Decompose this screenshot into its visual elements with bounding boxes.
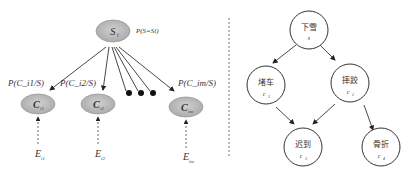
- edge-label-m: P(C_im/S): [177, 78, 216, 88]
- child-node-m: C im E im: [169, 97, 203, 164]
- svg-text:骨折: 骨折: [373, 139, 389, 149]
- svg-text:下雪: 下雪: [301, 23, 317, 32]
- svg-text:C: C: [93, 99, 100, 110]
- node-c1: 堵车 c 1: [247, 66, 285, 104]
- edge-label-1: P(C_i1/S): [7, 78, 44, 88]
- svg-text:c: c: [263, 91, 266, 97]
- svg-text:迟到: 迟到: [295, 140, 311, 149]
- diagram-canvas: S i P(S=Si) P(C_i1/S) P(C_i2/S) P(C_im/S…: [0, 0, 413, 185]
- node-c2: 摔跤 c 2: [331, 64, 369, 102]
- svg-text:im: im: [189, 159, 194, 164]
- child-node-1: C i1 E i1: [21, 94, 55, 161]
- svg-text:摔跤: 摔跤: [342, 75, 358, 85]
- left-diagram: S i P(S=Si) P(C_i1/S) P(C_i2/S) P(C_im/S…: [7, 20, 216, 164]
- svg-text:i1: i1: [40, 106, 44, 111]
- svg-text:4: 4: [383, 156, 385, 161]
- node-s: 下雪 s: [290, 11, 328, 49]
- child-node-2: C i2 E i2: [81, 94, 115, 161]
- svg-text:堵车: 堵车: [258, 77, 274, 87]
- root-node-label: S: [110, 25, 116, 37]
- svg-text:1: 1: [268, 94, 270, 99]
- svg-text:c: c: [300, 153, 303, 159]
- edge-label-2: P(C_i2/S): [59, 78, 96, 88]
- svg-text:2: 2: [352, 92, 354, 97]
- ellipsis-dots: [126, 90, 156, 96]
- svg-text:im: im: [188, 109, 193, 114]
- node-c3: 迟到 c 3: [284, 128, 322, 166]
- root-node: S i P(S=Si): [96, 20, 159, 42]
- node-c4: 骨折 c 4: [362, 128, 400, 166]
- root-prob-label: P(S=Si): [135, 27, 159, 35]
- svg-text:3: 3: [305, 156, 307, 161]
- svg-text:c: c: [378, 153, 381, 159]
- svg-text:i2: i2: [100, 106, 104, 111]
- svg-text:C: C: [33, 99, 40, 110]
- svg-text:i1: i1: [41, 156, 45, 161]
- right-diagram: 下雪 s 堵车 c 1 摔跤 c 2 迟到 c 3 骨折 c 4: [247, 11, 400, 166]
- svg-text:c: c: [347, 89, 350, 95]
- svg-text:C: C: [181, 102, 188, 113]
- svg-text:i2: i2: [101, 156, 105, 161]
